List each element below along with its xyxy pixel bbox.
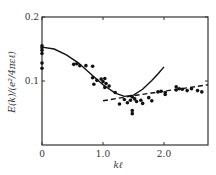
data-point — [126, 101, 130, 105]
data-point — [101, 80, 105, 84]
y-axis-label: E(k)/(e²/4πεℓ) — [7, 51, 17, 114]
x-tick-label: 2.0 — [157, 149, 172, 159]
data-point — [177, 87, 181, 91]
data-point — [135, 100, 139, 104]
data-point — [113, 91, 117, 95]
data-point — [147, 96, 151, 100]
y-tick-label: 0.2 — [25, 12, 39, 22]
data-point — [104, 82, 108, 86]
data-point — [141, 102, 145, 106]
data-point — [130, 109, 134, 113]
data-point — [40, 52, 44, 56]
data-point — [163, 91, 167, 95]
data-point — [181, 88, 185, 92]
curves — [42, 47, 208, 101]
data-point — [129, 98, 133, 102]
data-point — [123, 98, 127, 102]
data-point — [72, 63, 76, 67]
axis-ticks: 01.02.00.10.2 — [25, 12, 208, 159]
data-point — [150, 99, 154, 103]
plot-frame — [42, 17, 208, 145]
data-point — [40, 66, 44, 70]
data-point — [91, 76, 95, 80]
x-tick-label: 1.0 — [96, 149, 111, 159]
data-point — [91, 64, 95, 68]
data-point — [174, 85, 178, 89]
data-point — [92, 82, 96, 86]
data-point — [139, 98, 143, 102]
data-point — [196, 89, 200, 93]
data-point — [159, 89, 163, 93]
data-point — [103, 86, 107, 90]
data-point — [84, 64, 88, 68]
data-point — [75, 62, 79, 66]
data-point — [200, 90, 204, 94]
data-point — [40, 48, 44, 52]
data-point — [95, 79, 99, 83]
y-tick-label: 0.1 — [25, 76, 39, 86]
data-point — [78, 64, 82, 68]
data-point — [130, 112, 134, 116]
x-tick-label: 0 — [39, 149, 45, 159]
x-axis-label: kℓ — [113, 160, 122, 170]
data-point — [118, 102, 122, 106]
data-point — [103, 77, 107, 81]
data-point — [185, 89, 189, 93]
data-point — [107, 84, 111, 88]
solid-curve — [42, 47, 164, 96]
data-point — [156, 90, 160, 94]
data-point — [40, 61, 44, 65]
chart: 01.02.00.10.2 kℓ E(k)/(e²/4πεℓ) — [0, 0, 216, 175]
data-point — [190, 87, 194, 91]
